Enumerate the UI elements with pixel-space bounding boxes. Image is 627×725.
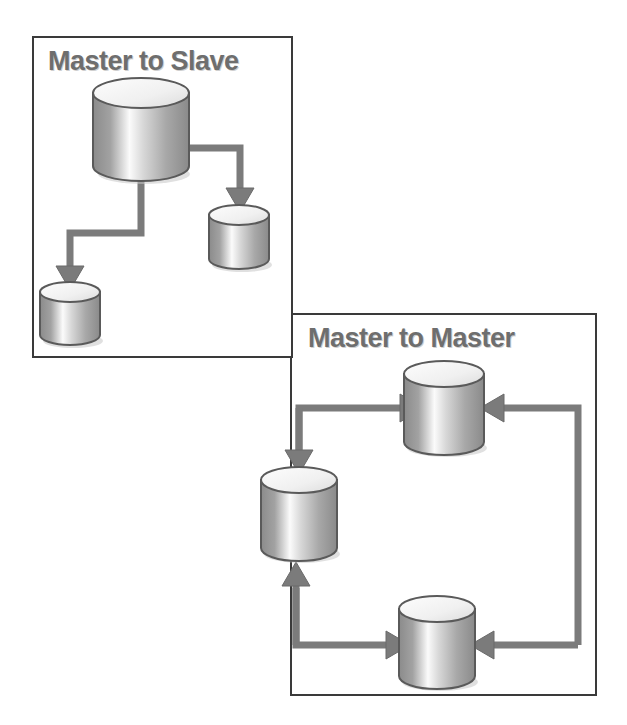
panel-master-to-slave: Master to Slave: [32, 36, 293, 358]
panel-title-master-to-master: Master to Master: [308, 323, 515, 354]
panel-title-master-to-slave: Master to Slave: [48, 46, 239, 77]
diagram-canvas: Master to Master Master to Slave: [0, 0, 627, 725]
panel-master-to-master: Master to Master: [290, 313, 597, 696]
